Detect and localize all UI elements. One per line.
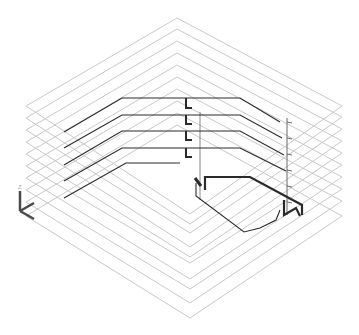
riser-tick (287, 202, 292, 203)
riser-tick (287, 122, 292, 123)
axis-x (20, 203, 34, 211)
riser-tick (287, 186, 292, 187)
floor-plate-10[interactable] (26, 125, 342, 318)
axis-z-label: Z (18, 184, 22, 190)
riser-elbow-1[interactable] (186, 98, 192, 108)
pipe-runs-group[interactable] (64, 98, 302, 232)
floor-plates-group (26, 18, 342, 318)
model-viewport[interactable]: Z (0, 0, 359, 335)
riser-elbow-4[interactable] (186, 148, 192, 157)
isometric-model-drawing[interactable]: Z (0, 0, 359, 335)
riser-tick (287, 170, 292, 171)
